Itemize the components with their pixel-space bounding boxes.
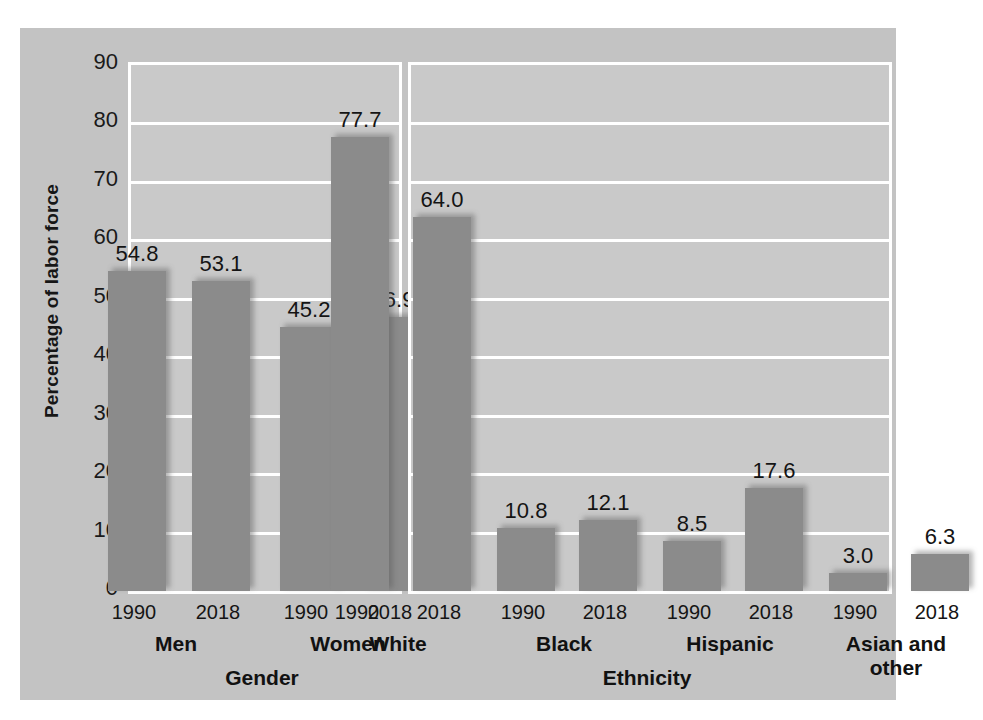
bar-slot: 10.8 bbox=[497, 65, 555, 591]
x-tick-label: 2018 bbox=[400, 602, 478, 622]
x-group-label-line: Men bbox=[81, 632, 271, 656]
bar[interactable] bbox=[745, 488, 803, 591]
bar-slot: 64.0 bbox=[413, 65, 471, 591]
bar-slot: 54.8 bbox=[108, 65, 166, 591]
bar[interactable] bbox=[192, 281, 250, 591]
bars-ethnicity: 77.764.010.812.18.517.63.06.3 bbox=[411, 65, 889, 591]
x-tick-label: 2018 bbox=[566, 602, 644, 622]
x-tick-label: 1990 bbox=[650, 602, 728, 622]
x-group-label: Black bbox=[470, 632, 658, 656]
y-axis-title: Percentage of labor force bbox=[41, 111, 63, 491]
bar[interactable] bbox=[497, 528, 555, 591]
chart-panel-ethnicity: 77.764.010.812.18.517.63.06.3 bbox=[408, 62, 892, 594]
x-tick-label: 2018 bbox=[898, 602, 976, 622]
x-group-label-line: Hispanic bbox=[636, 632, 824, 656]
bar[interactable] bbox=[280, 327, 338, 591]
x-group-label: Men bbox=[81, 632, 271, 656]
bar-slot: 45.2 bbox=[280, 65, 338, 591]
bar[interactable] bbox=[331, 137, 389, 591]
x-group-label-line: White bbox=[304, 632, 492, 656]
x-tick-label: 2018 bbox=[732, 602, 810, 622]
x-tick-label: 1990 bbox=[95, 602, 173, 622]
bar-value-label: 3.0 bbox=[807, 545, 909, 567]
bar-slot: 3.0 bbox=[829, 65, 887, 591]
bar[interactable] bbox=[829, 573, 887, 591]
bar-value-label: 6.3 bbox=[889, 526, 983, 548]
x-axis-title: Ethnicity bbox=[408, 666, 886, 690]
bar-value-label: 53.1 bbox=[170, 253, 272, 275]
x-group-label-line: Asian and bbox=[802, 632, 983, 656]
bar-slot: 17.6 bbox=[745, 65, 803, 591]
bar[interactable] bbox=[413, 217, 471, 591]
x-group-label-line: Black bbox=[470, 632, 658, 656]
x-axis-title: Gender bbox=[128, 666, 396, 690]
x-group-label: White bbox=[304, 632, 492, 656]
bar-value-label: 12.1 bbox=[557, 492, 659, 514]
bar-value-label: 64.0 bbox=[391, 189, 493, 211]
x-tick-label: 1990 bbox=[484, 602, 562, 622]
bar[interactable] bbox=[108, 271, 166, 591]
bar-slot: 6.3 bbox=[911, 65, 969, 591]
bar-slot: 53.1 bbox=[192, 65, 250, 591]
bar[interactable] bbox=[579, 520, 637, 591]
bar-slot: 8.5 bbox=[663, 65, 721, 591]
x-tick-label: 1990 bbox=[318, 602, 396, 622]
bar[interactable] bbox=[911, 554, 969, 591]
bar-slot: 77.7 bbox=[331, 65, 389, 591]
bar[interactable] bbox=[663, 541, 721, 591]
bar-value-label: 17.6 bbox=[723, 460, 825, 482]
bar-value-label: 77.7 bbox=[309, 109, 411, 131]
x-group-label: Hispanic bbox=[636, 632, 824, 656]
bar-value-label: 8.5 bbox=[641, 513, 743, 535]
x-tick-label: 1990 bbox=[816, 602, 894, 622]
bar-slot: 12.1 bbox=[579, 65, 637, 591]
chart-figure: Percentage of labor force 90807060504030… bbox=[20, 28, 896, 700]
x-tick-label: 2018 bbox=[179, 602, 257, 622]
